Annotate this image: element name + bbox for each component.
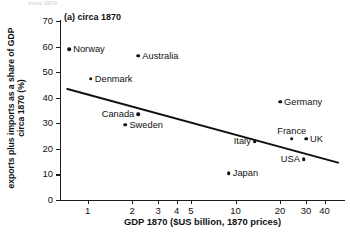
- data-point: [304, 137, 308, 141]
- data-point: [67, 47, 71, 51]
- data-point-label: Germany: [284, 97, 322, 107]
- data-point: [253, 139, 257, 143]
- data-point: [302, 157, 306, 161]
- data-point: [89, 77, 93, 81]
- data-point: [290, 137, 294, 141]
- data-point: [124, 123, 128, 127]
- data-point-label: Sweden: [129, 120, 163, 130]
- data-point-label: Norway: [73, 44, 105, 54]
- chart-figure: circa 1870 (a) circa 1870 exports plus i…: [0, 0, 350, 237]
- data-point-label: Denmark: [95, 74, 133, 84]
- data-point: [278, 100, 282, 104]
- data-point-label: Canada: [102, 109, 135, 119]
- data-point: [227, 171, 231, 175]
- data-point-label: Italy: [234, 136, 251, 146]
- data-point-label: Australia: [142, 51, 178, 61]
- data-point: [136, 113, 140, 117]
- trend-line: [0, 0, 350, 237]
- data-point-label: France: [277, 126, 306, 136]
- data-point-label: UK: [310, 134, 323, 144]
- data-point-label: Japan: [233, 168, 258, 178]
- data-point-label: USA: [281, 154, 300, 164]
- data-point: [136, 54, 140, 58]
